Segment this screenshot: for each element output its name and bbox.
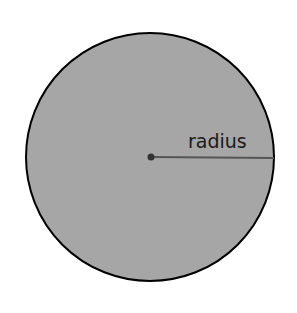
radius-label: radius [188,130,247,152]
center-point [148,154,155,161]
radius-line [151,157,274,158]
circle-diagram: radius [0,0,297,313]
